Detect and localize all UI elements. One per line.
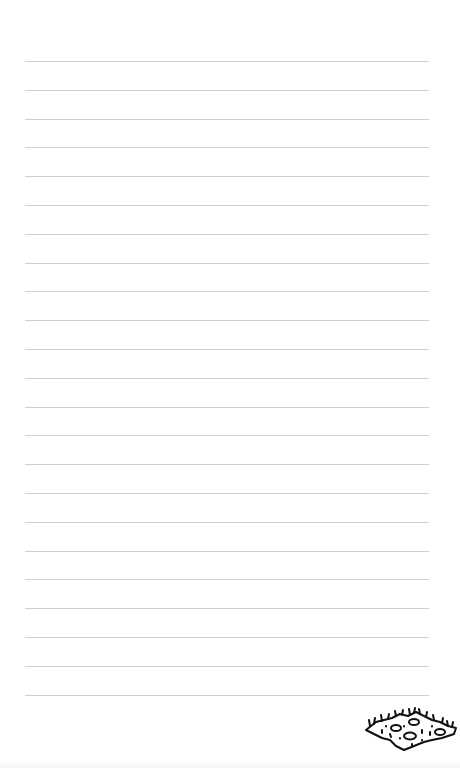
rule-line <box>25 407 429 408</box>
rule-line <box>25 464 429 465</box>
rule-line <box>25 119 429 120</box>
rule-line <box>25 522 429 523</box>
rule-line <box>25 608 429 609</box>
rule-line <box>25 666 429 667</box>
rule-line <box>25 320 429 321</box>
lined-paper-page <box>0 0 460 768</box>
rule-line <box>25 637 429 638</box>
rule-line <box>25 435 429 436</box>
rule-line <box>25 263 429 264</box>
rule-line <box>25 176 429 177</box>
rule-line <box>25 61 429 62</box>
rule-line <box>25 90 429 91</box>
rule-line <box>25 493 429 494</box>
bottom-edge <box>0 762 460 768</box>
rule-line <box>25 695 429 696</box>
rule-line <box>25 205 429 206</box>
rule-line <box>25 147 429 148</box>
rule-line <box>25 579 429 580</box>
rule-line <box>25 291 429 292</box>
rule-line <box>25 349 429 350</box>
rule-line <box>25 234 429 235</box>
rule-line <box>25 378 429 379</box>
ruled-lines <box>0 0 460 768</box>
rule-line <box>25 551 429 552</box>
grass-soil-patch-icon <box>362 706 460 752</box>
